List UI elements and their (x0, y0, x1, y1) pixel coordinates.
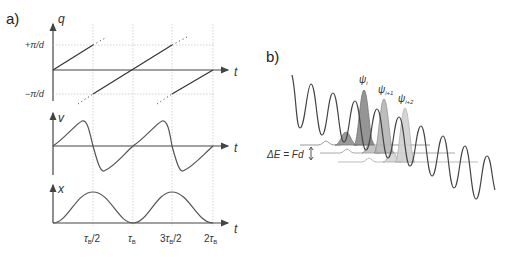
q-t-axis-label: t (234, 65, 238, 79)
xtick-tau: τB (128, 233, 136, 245)
figure: a) q t +π/d −π/d v t (0, 0, 518, 257)
xtick-half-tau: τB/2 (84, 233, 101, 245)
v-t-axis-label: t (234, 141, 238, 155)
xtick-three-half-tau: 3τB/2 (160, 233, 182, 245)
q-plot: q t +π/d −π/d (25, 12, 238, 104)
psi-i2-label: ψi+2 (398, 93, 414, 105)
psi-i-wavefunction (354, 90, 374, 145)
ytick-minus-pi-d: −π/d (25, 89, 45, 99)
x-axis-label: x (57, 182, 65, 196)
panel-a-label: a) (6, 10, 19, 27)
ytick-plus-pi-d: +π/d (25, 40, 45, 50)
psi-i-label: ψi (359, 74, 368, 86)
panel-b-label: b) (266, 48, 279, 65)
psi-i2-wavefunction (395, 108, 415, 162)
wannier-stark-states (300, 90, 478, 162)
x-t-axis-label: t (234, 222, 238, 236)
tilted-potential (292, 75, 495, 199)
q-axis-label: q (58, 12, 65, 26)
energy-spacing-arrow-icon (309, 147, 313, 160)
x-tick-labels: τB/2 τB 3τB/2 2τB (84, 233, 217, 245)
xtick-two-tau: 2τB (204, 233, 217, 245)
vertical-gridlines (93, 24, 213, 226)
v-plot: v t (53, 111, 238, 175)
energy-spacing-label: ΔE = Fd (266, 149, 304, 160)
x-plot: x t (53, 182, 238, 236)
psi-i1-label: ψi+1 (378, 84, 393, 96)
v-axis-label: v (58, 111, 65, 125)
